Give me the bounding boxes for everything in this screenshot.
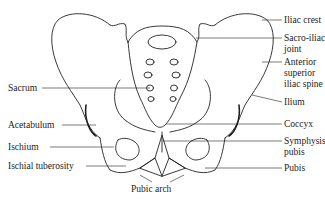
label-iliac-crest: Iliac crest bbox=[284, 15, 321, 25]
label-sacro-iliac-joint-2: joint bbox=[284, 44, 301, 54]
label-coccyx: Coccyx bbox=[284, 119, 313, 129]
label-ilium: Ilium bbox=[284, 97, 305, 107]
label-pubis: Pubis bbox=[284, 163, 305, 173]
label-acetabulum: Acetabulum bbox=[8, 120, 54, 130]
label-asis: Anterior bbox=[284, 57, 316, 67]
label-asis-3: iliac spine bbox=[284, 79, 323, 89]
label-ischial-tuberosity: Ischial tuberosity bbox=[8, 161, 74, 171]
label-ischium: Ischium bbox=[8, 142, 39, 152]
label-sacro-iliac-joint: Sacro-iliac bbox=[284, 33, 325, 43]
label-symphysis-pubis-2: pubis bbox=[284, 147, 305, 157]
label-sacrum: Sacrum bbox=[8, 83, 37, 93]
label-pubic-arch: Pubic arch bbox=[131, 184, 171, 194]
pelvis-diagram: Iliac crest Sacro-iliac joint Anterior s… bbox=[0, 0, 325, 200]
label-symphysis-pubis: Symphysis bbox=[284, 136, 325, 146]
label-asis-2: superior bbox=[284, 68, 315, 78]
